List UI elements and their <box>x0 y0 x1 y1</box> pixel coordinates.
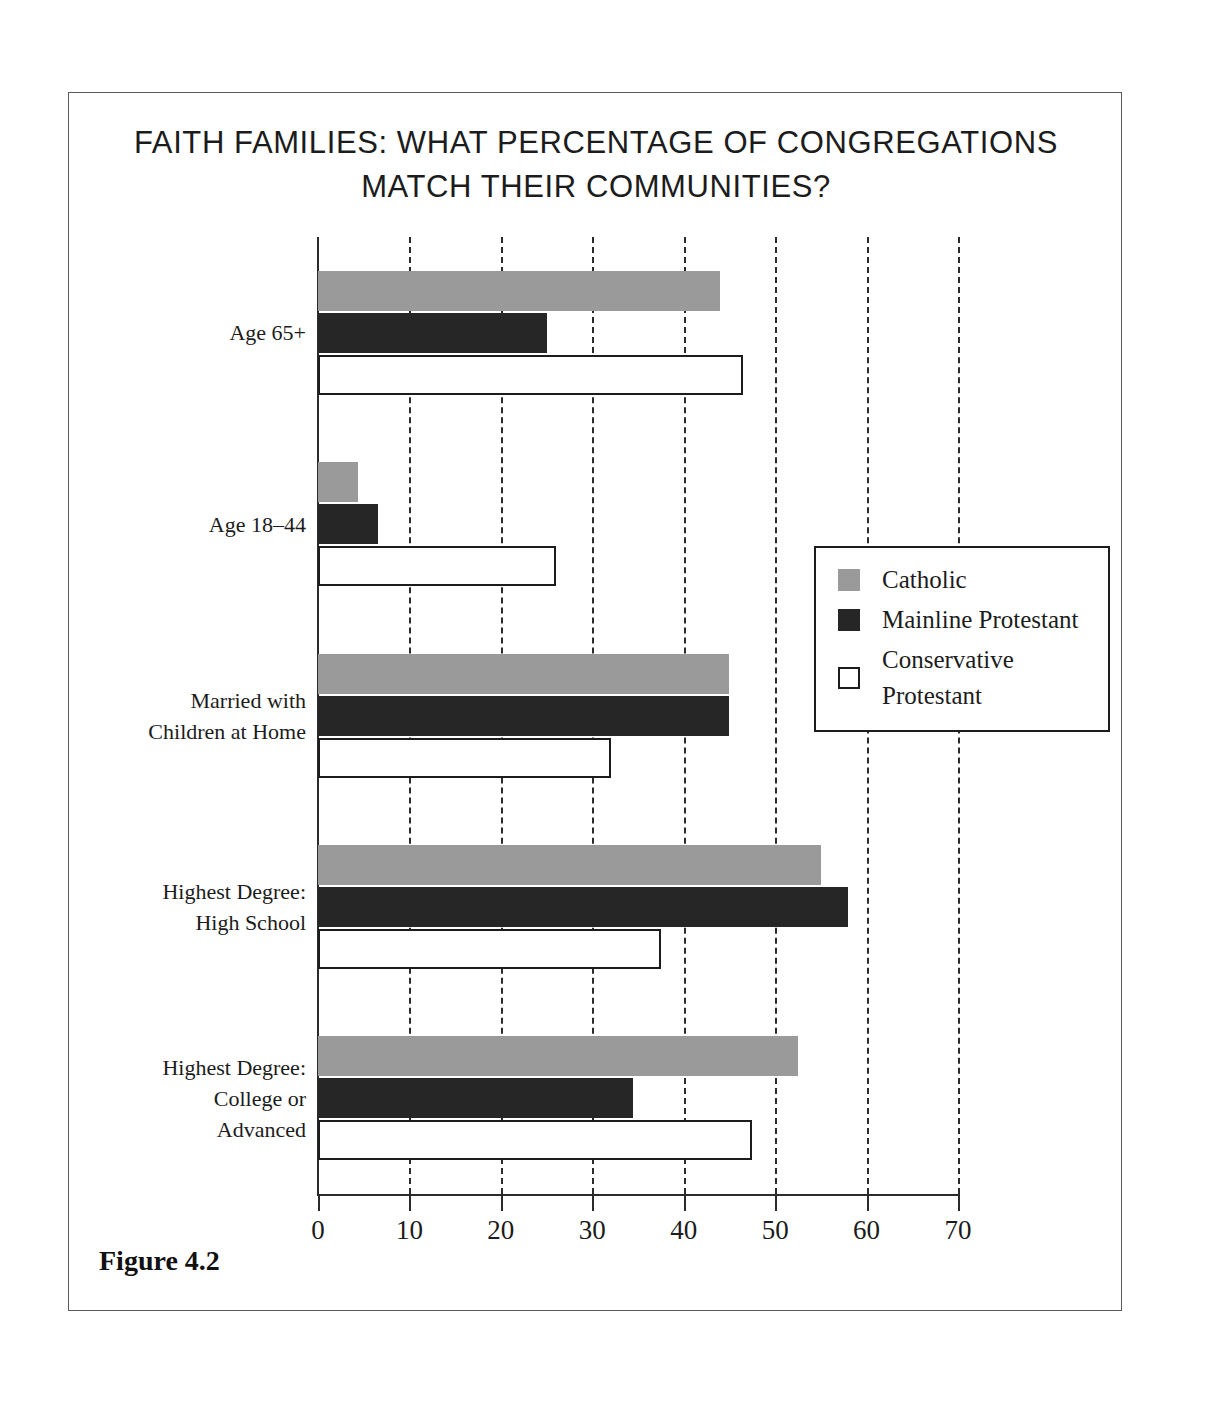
tick-mark-10 <box>409 1194 411 1211</box>
category-label: Highest Degree:High School <box>86 876 306 938</box>
category-label-line: Age 18–44 <box>86 509 306 540</box>
bar-catholic <box>318 845 821 885</box>
tick-mark-0 <box>318 1194 320 1211</box>
bar-catholic <box>318 462 358 502</box>
bar-mainline <box>318 504 378 544</box>
category-label-line: Married with <box>86 685 306 716</box>
category-label-line: Advanced <box>86 1114 306 1145</box>
category-label-line: College or <box>86 1083 306 1114</box>
bar-conservative <box>318 738 611 778</box>
bar-conservative <box>318 355 743 395</box>
legend-item: Catholic <box>816 560 1108 600</box>
figure-caption: Figure 4.2 <box>99 1245 220 1277</box>
category-label-line: Highest Degree: <box>86 876 306 907</box>
chart-legend: CatholicMainline ProtestantConservative … <box>814 546 1110 732</box>
legend-swatch-icon <box>838 609 860 631</box>
bar-catholic <box>318 271 720 311</box>
x-axis-ticks: 010203040506070 <box>318 1201 963 1241</box>
tick-label-10: 10 <box>379 1215 439 1246</box>
legend-label: Mainline Protestant <box>882 602 1079 638</box>
tick-mark-40 <box>684 1194 686 1211</box>
tick-mark-50 <box>775 1194 777 1211</box>
bar-catholic <box>318 1036 798 1076</box>
legend-item: Conservative Protestant <box>816 640 1108 716</box>
legend-label: Catholic <box>882 562 967 598</box>
legend-swatch-icon <box>838 667 860 689</box>
tick-label-60: 60 <box>837 1215 897 1246</box>
legend-swatch-icon <box>838 569 860 591</box>
category-label: Married withChildren at Home <box>86 685 306 747</box>
bar-mainline <box>318 696 729 736</box>
bar-conservative <box>318 546 556 586</box>
bar-mainline <box>318 1078 633 1118</box>
category-label: Age 65+ <box>86 317 306 348</box>
figure-frame: FAITH FAMILIES: WHAT PERCENTAGE OF CONGR… <box>68 92 1122 1311</box>
tick-label-20: 20 <box>471 1215 531 1246</box>
category-label-line: Age 65+ <box>86 317 306 348</box>
tick-label-50: 50 <box>745 1215 805 1246</box>
category-label-line: Children at Home <box>86 716 306 747</box>
category-label: Age 18–44 <box>86 509 306 540</box>
tick-label-30: 30 <box>562 1215 622 1246</box>
chart-title: FAITH FAMILIES: WHAT PERCENTAGE OF CONGR… <box>99 121 1093 209</box>
category-label-line: High School <box>86 907 306 938</box>
tick-mark-20 <box>501 1194 503 1211</box>
category-label-line: Highest Degree: <box>86 1052 306 1083</box>
x-axis-line <box>317 1194 960 1196</box>
legend-item: Mainline Protestant <box>816 600 1108 640</box>
bar-mainline <box>318 313 547 353</box>
bar-mainline <box>318 887 848 927</box>
category-label: Highest Degree:College orAdvanced <box>86 1052 306 1145</box>
bar-catholic <box>318 654 729 694</box>
tick-mark-30 <box>592 1194 594 1211</box>
legend-label: Conservative Protestant <box>882 642 1108 714</box>
bar-conservative <box>318 929 661 969</box>
tick-label-40: 40 <box>654 1215 714 1246</box>
bar-conservative <box>318 1120 752 1160</box>
tick-mark-60 <box>867 1194 869 1211</box>
y-axis-category-labels: Age 65+Age 18–44Married withChildren at … <box>78 237 306 1194</box>
tick-label-70: 70 <box>928 1215 988 1246</box>
tick-label-0: 0 <box>288 1215 348 1246</box>
tick-mark-70 <box>958 1194 960 1211</box>
